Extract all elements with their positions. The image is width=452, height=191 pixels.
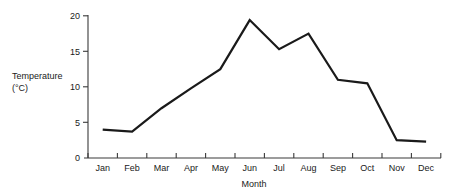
temperature-series-line	[103, 20, 426, 142]
x-tick-label-aug: Aug	[300, 163, 316, 173]
x-tick-label-may: May	[212, 163, 230, 173]
x-tick-label-oct: Oct	[360, 163, 375, 173]
x-tick-label-dec: Dec	[418, 163, 435, 173]
x-tick-label-jun: Jun	[242, 163, 257, 173]
y-tick-label-0: 0	[75, 153, 80, 163]
x-tick-label-feb: Feb	[124, 163, 140, 173]
y-tick-label-15: 15	[70, 47, 80, 57]
x-axis-ticks	[88, 153, 441, 158]
x-tick-label-jul: Jul	[273, 163, 285, 173]
temperature-line-chart: Temperature (°C) Month 20 15 10 5 0	[0, 0, 452, 191]
x-tick-label-apr: Apr	[184, 163, 198, 173]
y-axis-title-line2: (°C)	[12, 83, 28, 93]
x-axis-tick-labels: Jan Feb Mar Apr May Jun Jul Aug Sep Oct …	[95, 163, 434, 173]
x-tick-label-mar: Mar	[154, 163, 170, 173]
y-tick-label-10: 10	[70, 82, 80, 92]
y-axis-ticks: 20 15 10 5 0	[70, 11, 88, 163]
y-tick-label-5: 5	[75, 118, 80, 128]
x-tick-label-nov: Nov	[389, 163, 406, 173]
y-tick-label-20: 20	[70, 11, 80, 21]
y-axis-title-line1: Temperature	[12, 71, 63, 81]
chart-canvas: Temperature (°C) Month 20 15 10 5 0	[0, 0, 452, 191]
x-axis-title: Month	[241, 179, 266, 189]
x-tick-label-sep: Sep	[330, 163, 346, 173]
x-tick-label-jan: Jan	[95, 163, 110, 173]
